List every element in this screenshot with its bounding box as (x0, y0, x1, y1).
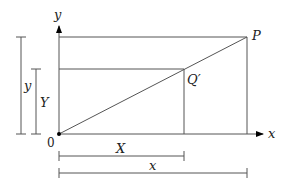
origin-label: 0 (47, 136, 55, 150)
inner-width-label: X (115, 141, 126, 156)
outer-width-label: x (149, 158, 157, 173)
y-axis-label: y (53, 7, 62, 22)
outer-height-label: y (23, 78, 32, 93)
x-axis-label: x (268, 126, 276, 141)
point-P-label: P (251, 28, 261, 43)
origin-dot (57, 132, 61, 136)
inner-height-label: Y (40, 95, 50, 110)
diagonal-line-0-to-P (59, 37, 247, 134)
coordinate-diagram: y x 0 P Q′ y Y X x (0, 0, 285, 188)
point-Q-label: Q′ (187, 72, 201, 87)
